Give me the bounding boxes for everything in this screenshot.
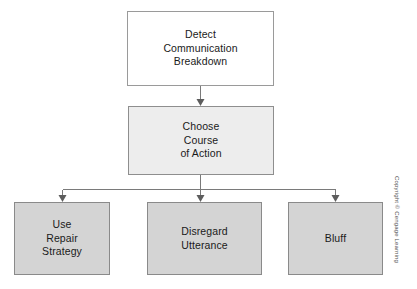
node-detect-communication-breakdown[interactable]: Detect Communication Breakdown xyxy=(127,11,274,86)
arrowhead-choose xyxy=(197,99,205,106)
node-choose-course-of-action[interactable]: Choose Course of Action xyxy=(128,106,274,175)
diagram-canvas: Detect Communication Breakdown Choose Co… xyxy=(0,0,417,289)
node-disregard-label: Disregard Utterance xyxy=(181,225,227,252)
node-detect-label: Detect Communication Breakdown xyxy=(163,28,237,69)
node-disregard-utterance[interactable]: Disregard Utterance xyxy=(147,202,262,275)
node-use-repair-strategy[interactable]: Use Repair Strategy xyxy=(14,202,110,275)
arrowhead-disregard xyxy=(197,195,205,202)
node-bluff-label: Bluff xyxy=(325,232,346,246)
copyright-notice: Copyright © Cengage Learning xyxy=(391,176,403,284)
arrowhead-repair xyxy=(59,195,67,202)
node-repair-label: Use Repair Strategy xyxy=(42,218,82,259)
node-bluff[interactable]: Bluff xyxy=(288,202,383,275)
node-choose-label: Choose Course of Action xyxy=(180,120,221,161)
arrowhead-bluff xyxy=(332,195,340,202)
